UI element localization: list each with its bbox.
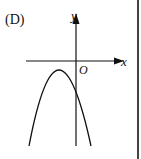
y-axis-label: y	[69, 8, 77, 23]
graph-diagram: x y O	[0, 0, 141, 159]
origin-label: O	[79, 63, 88, 77]
right-border	[137, 0, 139, 159]
parabola-curve	[29, 70, 91, 146]
x-axis-label: x	[120, 54, 127, 69]
